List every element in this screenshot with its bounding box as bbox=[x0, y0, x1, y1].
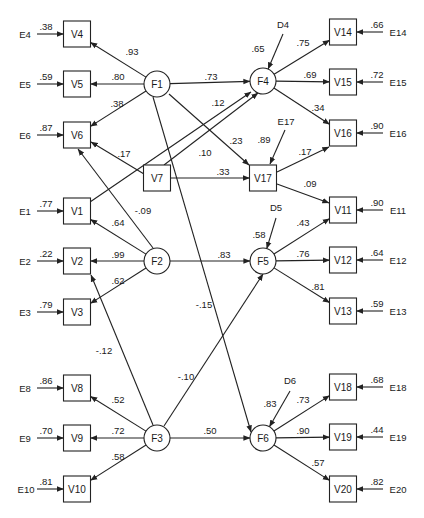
observed-variable-v5: V5 bbox=[64, 71, 91, 97]
observed-variable-v16: V16 bbox=[330, 120, 357, 146]
observed-variable-v13: V13 bbox=[330, 298, 357, 324]
disturbance-arrow-d5 bbox=[267, 218, 276, 249]
node-label: V6 bbox=[71, 130, 84, 141]
error-term-label: E12 bbox=[390, 255, 407, 266]
error-arrow-e17 bbox=[270, 130, 285, 164]
observed-variable-v3: V3 bbox=[64, 299, 91, 325]
path-coefficient: .75 bbox=[296, 37, 309, 48]
path-coefficient: -.15 bbox=[196, 299, 212, 310]
path-coefficient: .09 bbox=[303, 178, 316, 189]
disturbance-label: D4 bbox=[277, 19, 289, 30]
error-coefficient: .82 bbox=[370, 476, 383, 487]
path-coefficient: -.09 bbox=[135, 205, 151, 216]
error-coefficient: .72 bbox=[370, 69, 383, 80]
path-coefficient: .58 bbox=[111, 451, 124, 462]
observed-variable-v19: V19 bbox=[330, 424, 357, 450]
node-label: V5 bbox=[71, 79, 84, 90]
path-coefficient: .62 bbox=[111, 275, 124, 286]
path-coefficient: .80 bbox=[111, 71, 124, 82]
path-coefficient: -.10 bbox=[178, 371, 194, 382]
error-term-label: E14 bbox=[390, 27, 407, 38]
path-coefficient: .83 bbox=[217, 249, 230, 260]
node-label: V18 bbox=[334, 382, 352, 393]
node-label: V10 bbox=[68, 484, 86, 495]
error-coefficient: .66 bbox=[370, 19, 383, 30]
path-coefficient: .10 bbox=[198, 147, 211, 158]
path-coefficient: .73 bbox=[296, 394, 309, 405]
error-coefficient: .59 bbox=[370, 298, 383, 309]
error-term-label: E1 bbox=[19, 206, 31, 217]
path-coefficient: -.12 bbox=[96, 345, 112, 356]
error-coefficient: .89 bbox=[257, 134, 270, 145]
node-label: F1 bbox=[151, 79, 163, 90]
disturbance-label: D5 bbox=[270, 202, 282, 213]
node-label: F2 bbox=[151, 256, 163, 267]
observed-variable-v8: V8 bbox=[64, 375, 91, 401]
error-coefficient: .64 bbox=[370, 247, 383, 258]
path-diagram: F1F2F3F4F5F6V4V5V6V1V2V3V8V9V10V7V17V14V… bbox=[0, 0, 424, 518]
node-label: V20 bbox=[334, 484, 352, 495]
error-term-label: E11 bbox=[390, 205, 406, 216]
node-label: F5 bbox=[257, 256, 269, 267]
error-term-label: E3 bbox=[19, 307, 31, 318]
latent-factor-f5: F5 bbox=[250, 248, 276, 274]
error-coefficient: .87 bbox=[39, 122, 52, 133]
error-coefficient: .81 bbox=[39, 476, 52, 487]
disturbance-coefficient: .58 bbox=[252, 229, 265, 240]
path-coefficient: .76 bbox=[296, 248, 309, 259]
error-coefficient: .68 bbox=[370, 374, 383, 385]
error-term-label: E4 bbox=[19, 29, 31, 40]
path-coefficient: .12 bbox=[211, 97, 224, 108]
error-term-label: E13 bbox=[390, 306, 407, 317]
error-coefficient: .38 bbox=[39, 21, 52, 32]
error-term-label: E18 bbox=[390, 382, 407, 393]
path-f6-to-v19 bbox=[276, 437, 330, 438]
observed-variable-v10: V10 bbox=[64, 476, 91, 502]
error-term-label: E8 bbox=[19, 383, 31, 394]
error-term-label: E17 bbox=[278, 116, 295, 127]
path-coefficient: .38 bbox=[110, 98, 123, 109]
error-term-label: E5 bbox=[19, 79, 31, 90]
latent-factor-f1: F1 bbox=[144, 71, 170, 97]
error-coefficient: .79 bbox=[39, 299, 52, 310]
error-coefficient: .86 bbox=[39, 375, 52, 386]
node-label: V3 bbox=[71, 307, 84, 318]
error-term-label: E9 bbox=[19, 433, 31, 444]
node-label: V4 bbox=[71, 29, 84, 40]
path-coefficient: .34 bbox=[311, 102, 324, 113]
latent-factor-f6: F6 bbox=[250, 425, 276, 451]
error-term-label: E20 bbox=[390, 484, 407, 495]
path-coefficient: .73 bbox=[204, 71, 217, 82]
node-label: V17 bbox=[254, 173, 272, 184]
path-coefficient: .23 bbox=[229, 135, 242, 146]
path-coefficient: .64 bbox=[111, 217, 124, 228]
path-coefficient: .50 bbox=[203, 425, 216, 436]
observed-variable-v12: V12 bbox=[330, 247, 357, 273]
error-coefficient: .70 bbox=[39, 425, 52, 436]
path-coefficient: .57 bbox=[311, 457, 324, 468]
error-coefficient: .22 bbox=[39, 248, 52, 259]
observed-variable-v18: V18 bbox=[330, 374, 357, 400]
observed-variable-v2: V2 bbox=[64, 248, 91, 274]
node-label: V2 bbox=[71, 256, 84, 267]
path-coefficient: .93 bbox=[125, 46, 138, 57]
disturbance-arrow-d4 bbox=[268, 34, 283, 69]
observed-variable-v1: V1 bbox=[64, 198, 91, 224]
disturbance-coefficient: .83 bbox=[263, 398, 276, 409]
error-coefficient: .77 bbox=[39, 198, 52, 209]
error-term-label: E19 bbox=[390, 432, 407, 443]
disturbance-coefficient: .65 bbox=[251, 43, 264, 54]
latent-factor-f2: F2 bbox=[144, 248, 170, 274]
error-coefficient: .90 bbox=[370, 120, 383, 131]
node-label: V14 bbox=[334, 27, 352, 38]
node-label: F3 bbox=[151, 433, 163, 444]
node-label: V7 bbox=[151, 173, 164, 184]
observed-variable-v4: V4 bbox=[64, 21, 91, 47]
node-label: V1 bbox=[71, 206, 84, 217]
node-label: V9 bbox=[71, 433, 84, 444]
path-coefficient: .17 bbox=[117, 148, 130, 159]
error-coefficient: .59 bbox=[39, 71, 52, 82]
error-term-label: E10 bbox=[18, 484, 35, 495]
node-label: V16 bbox=[334, 128, 352, 139]
observed-variable-v6: V6 bbox=[64, 122, 91, 148]
